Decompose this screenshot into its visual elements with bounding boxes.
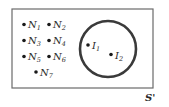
point-n1: N1 <box>22 19 41 32</box>
point-label: N6 <box>52 51 66 64</box>
universe-label: S' <box>145 92 155 103</box>
point-i2: I2 <box>109 50 123 63</box>
venn-diagram: N1 N2 N3 N4 N5 N6 N7 I1 <box>0 0 169 107</box>
point-n7: N7 <box>34 67 54 80</box>
outside-points: N1 N2 N3 N4 N5 N6 N7 <box>22 19 66 80</box>
point-dot <box>22 23 26 27</box>
point-dot <box>47 55 51 59</box>
point-dot <box>109 53 113 57</box>
point-n3: N3 <box>22 35 41 48</box>
point-n6: N6 <box>47 51 66 64</box>
point-label: N2 <box>52 19 66 32</box>
point-dot <box>22 39 26 43</box>
point-dot <box>47 39 51 43</box>
point-label: N7 <box>39 67 54 80</box>
point-dot <box>86 43 90 47</box>
set-circle <box>80 21 136 77</box>
point-n5: N5 <box>22 51 41 64</box>
point-label: N5 <box>27 51 41 64</box>
point-label: N1 <box>27 19 41 32</box>
point-dot <box>47 23 51 27</box>
point-label: I1 <box>91 40 100 53</box>
point-label: N3 <box>27 35 41 48</box>
point-label: N4 <box>52 35 66 48</box>
point-label: I2 <box>114 50 123 63</box>
inside-points: I1 I2 <box>86 40 123 63</box>
point-i1: I1 <box>86 40 100 53</box>
point-n2: N2 <box>47 19 66 32</box>
point-n4: N4 <box>47 35 66 48</box>
point-dot <box>34 70 38 74</box>
point-dot <box>22 55 26 59</box>
